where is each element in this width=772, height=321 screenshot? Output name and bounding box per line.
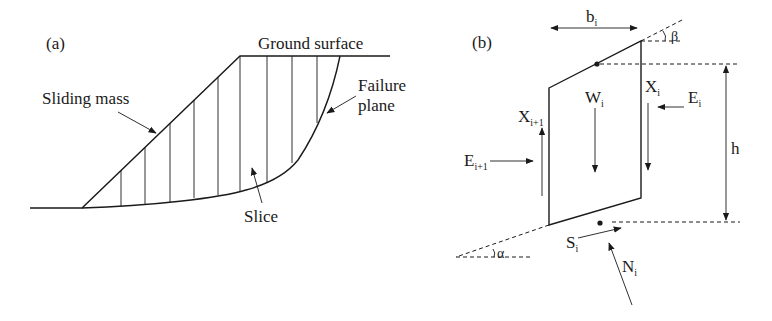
base-shear-label: Si [566,233,578,254]
failure-plane-label-line2: plane [358,96,395,115]
panel-a-label: (a) [46,34,65,53]
panel-b: (b) β α bi h Wi Xi Ei X [456,7,740,305]
beta-label: β [671,29,678,44]
weight-label: Wi [585,88,604,109]
ground-surface-label: Ground surface [258,34,363,53]
panel-a: (a) Ground surface Sliding mass Failure … [30,34,406,226]
beta-angle-arc [663,31,666,41]
height-label: h [731,139,740,158]
failure-plane-pointer-arrow [327,96,356,113]
top-midpoint-dot [594,61,599,66]
sliding-mass-pointer-arrow [118,112,156,133]
width-label: bi [586,7,598,28]
base-midpoint-dot [597,220,602,225]
normal-right-label: Ei [688,88,701,109]
slope-profile [30,56,390,208]
failure-plane-label-line1: Failure [358,76,406,95]
slice-lines [121,56,317,206]
base-normal-label: Ni [622,257,637,278]
slice-label: Slice [244,207,278,226]
slope-stability-diagram: (a) Ground surface Sliding mass Failure … [0,0,772,321]
shear-left-label: Xi+1 [518,107,544,128]
base-shear-arrow [578,228,621,238]
normal-left-label: Ei+1 [464,151,488,172]
alpha-angle-arc [493,249,495,257]
shear-right-label: Xi [645,77,660,98]
sliding-mass-label: Sliding mass [42,89,129,108]
alpha-label: α [497,246,505,261]
panel-b-label: (b) [472,33,492,52]
